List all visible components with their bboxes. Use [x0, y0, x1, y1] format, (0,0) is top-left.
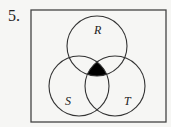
set-s-label: S — [65, 94, 71, 108]
set-r-label: R — [93, 23, 102, 37]
set-t-circle — [85, 56, 145, 116]
set-t-label: T — [124, 94, 132, 108]
venn-diagram: R S T — [0, 0, 171, 127]
set-s-circle — [49, 56, 109, 116]
